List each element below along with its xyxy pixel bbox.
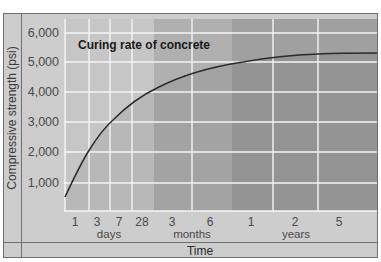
x-tick-1-year: 1 (248, 215, 255, 229)
y-axis-label: Compressive strength (psi) (5, 46, 19, 189)
x-group-days: days (97, 228, 121, 240)
y-tick-3000: 3,000 (28, 115, 59, 129)
x-tick-2-years: 2 (292, 215, 299, 229)
x-tick-1-day: 1 (72, 215, 79, 229)
y-tick-5000: 5,000 (28, 55, 59, 69)
x-group-years: years (282, 228, 310, 240)
x-tick-3-months: 3 (169, 215, 176, 229)
y-tick-4000: 4,000 (28, 85, 59, 99)
chart-title: Curing rate of concrete (78, 38, 210, 52)
x-tick-5-years: 5 (336, 215, 343, 229)
x-axis-label: Time (187, 244, 213, 258)
x-tick-3-days: 3 (94, 215, 101, 229)
y-tick-6000: 6,000 (28, 26, 59, 40)
x-group-months: months (173, 228, 211, 240)
x-tick-6-months: 6 (207, 215, 214, 229)
y-tick-2000: 2,000 (28, 145, 59, 159)
x-tick-28-days: 28 (135, 215, 148, 229)
x-tick-7-days: 7 (116, 215, 123, 229)
y-tick-1000: 1,000 (28, 176, 59, 190)
